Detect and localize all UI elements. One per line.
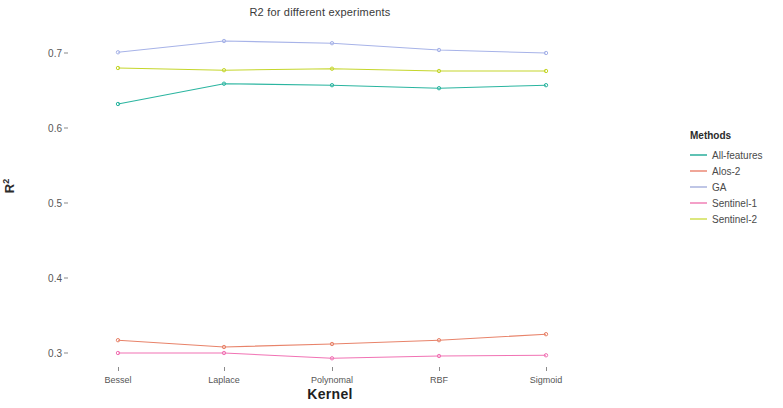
y-tick-mark: [64, 53, 68, 54]
x-tick-mark: [224, 367, 225, 371]
legend-item-label: Sentinel-2: [712, 214, 757, 225]
y-tick-label: 0.6: [48, 123, 62, 134]
legend-swatch-icon: [690, 154, 707, 156]
legend-items: All-featuresAlos-2GASentinel-1Sentinel-2: [690, 147, 783, 227]
series-line: [118, 334, 546, 347]
y-tick-label: 0.4: [48, 273, 62, 284]
legend-item-label: Sentinel-1: [712, 198, 757, 209]
y-tick-label: 0.3: [48, 348, 62, 359]
legend-item-alos-2[interactable]: Alos-2: [690, 163, 783, 179]
legend-item-label: Alos-2: [712, 166, 740, 177]
y-tick-mark: [64, 128, 68, 129]
series-sentinel-2: [116, 66, 547, 72]
series-alos-2: [116, 333, 547, 349]
x-tick-label: Laplace: [208, 375, 240, 385]
legend: Methods All-featuresAlos-2GASentinel-1Se…: [690, 130, 783, 227]
y-axis-title: R2: [1, 179, 17, 193]
x-tick-label: Polynomal: [311, 375, 353, 385]
y-tick-mark: [64, 353, 68, 354]
x-tick-mark: [118, 367, 119, 371]
x-tick-label: Sigmoid: [530, 375, 563, 385]
series-ga: [116, 39, 547, 54]
legend-item-label: GA: [712, 182, 726, 193]
legend-item-sentinel-1[interactable]: Sentinel-1: [690, 195, 783, 211]
legend-item-ga[interactable]: GA: [690, 179, 783, 195]
legend-swatch-icon: [690, 202, 707, 204]
series-all-features: [116, 82, 547, 106]
legend-item-all-features[interactable]: All-features: [690, 147, 783, 163]
y-tick-label: 0.7: [48, 48, 62, 59]
x-tick-label: RBF: [430, 375, 448, 385]
series-line: [118, 41, 546, 53]
legend-swatch-icon: [690, 186, 707, 188]
x-axis-title: Kernel: [0, 386, 660, 402]
legend-item-label: All-features: [712, 150, 763, 161]
legend-item-sentinel-2[interactable]: Sentinel-2: [690, 211, 783, 227]
x-tick-mark: [546, 367, 547, 371]
y-tick-mark: [64, 278, 68, 279]
series-sentinel-1: [116, 351, 547, 360]
chart-root: R2 for different experiments 0.30.40.50.…: [0, 0, 783, 408]
plot-area: [0, 0, 660, 375]
y-tick-mark: [64, 203, 68, 204]
legend-swatch-icon: [690, 218, 707, 220]
legend-title: Methods: [690, 130, 783, 141]
series-canvas: [0, 0, 660, 375]
x-tick-mark: [439, 367, 440, 371]
legend-swatch-icon: [690, 170, 707, 172]
series-line: [118, 353, 546, 358]
x-tick-mark: [332, 367, 333, 371]
x-tick-label: Bessel: [104, 375, 131, 385]
y-tick-label: 0.5: [48, 198, 62, 209]
